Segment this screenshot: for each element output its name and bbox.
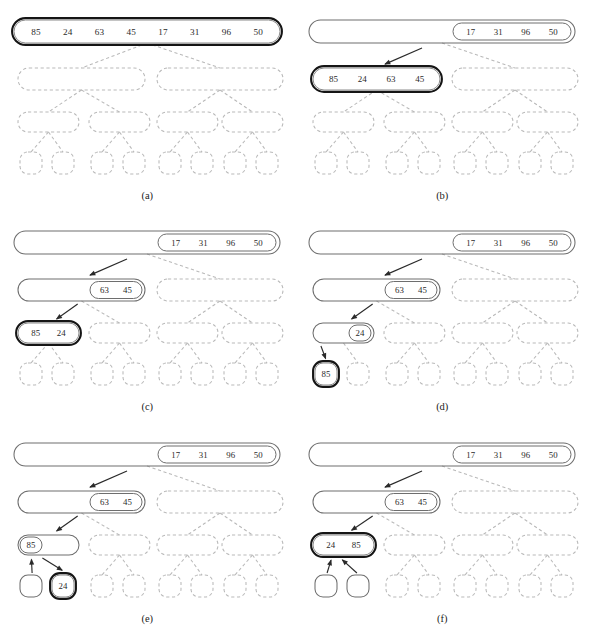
- ghost-edge-l2-1: [377, 513, 415, 535]
- ghost-edge-l3-5: [188, 132, 203, 152]
- ghost-edge-l3-6: [235, 555, 253, 575]
- l2-remaining-value: 63: [100, 285, 109, 295]
- panel-caption-d: (d): [436, 401, 449, 413]
- ghost-leaf-7: [256, 152, 278, 174]
- ghost-edge-l3-2: [102, 343, 120, 363]
- panel-caption-b: (b): [436, 190, 449, 202]
- ghost-leaf-7: [551, 363, 573, 385]
- ghost-node-l3-2: [452, 323, 513, 343]
- ghost-edge-l2-3: [220, 301, 253, 323]
- ghost-node-l2-1: [452, 491, 578, 513]
- ghost-edge-l3-3: [120, 132, 135, 152]
- l2-remaining-value: 63: [100, 497, 109, 507]
- returned-leaf: [347, 575, 369, 597]
- ghost-leaf-4: [159, 152, 181, 174]
- ghost-leaf-5: [191, 363, 213, 385]
- ghost-leaf-3: [123, 152, 145, 174]
- ghost-leaf-6: [224, 152, 246, 174]
- panel-caption-f: (f): [437, 613, 448, 625]
- ghost-leaf-5: [486, 152, 508, 174]
- l2-remaining-value: 45: [418, 285, 427, 295]
- ghost-edge-l3-5: [188, 343, 203, 363]
- ghost-node-l2-1: [157, 68, 283, 90]
- panel-b: 1731965085246345(b): [309, 20, 578, 202]
- root-value: 96: [222, 27, 232, 37]
- recursion-arrow-2-head: [351, 314, 358, 320]
- ghost-node-l3-0: [313, 112, 374, 132]
- ghost-edge-l2-1: [377, 90, 415, 112]
- ghost-node-l3-1: [89, 112, 150, 132]
- root-remaining-value: 96: [226, 450, 235, 460]
- ghost-leaf-7: [551, 152, 573, 174]
- recursion-arrow-1-shaft: [90, 471, 127, 487]
- ghost-edge-l3-1: [49, 132, 64, 152]
- ghost-leaf-1: [347, 152, 369, 174]
- ghost-leaf-0: [20, 363, 42, 385]
- ghost-edge-l3-4: [170, 343, 188, 363]
- panel-f: 1731965063452485(f): [309, 443, 578, 625]
- ghost-edge-l2-2: [188, 301, 221, 323]
- visited-node-l3: [313, 323, 374, 343]
- root-remaining-value: 96: [521, 238, 530, 248]
- root-value: 17: [158, 27, 168, 37]
- ghost-node-l3-3: [517, 112, 578, 132]
- ghost-leaf-6: [519, 152, 541, 174]
- ghost-leaf-2: [91, 363, 113, 385]
- recursion-arrow-2-head: [56, 314, 63, 320]
- ghost-edge-l3-4: [465, 343, 483, 363]
- ghost-leaf-5: [486, 363, 508, 385]
- root-value: 85: [31, 27, 41, 37]
- ghost-edge-l3-0: [31, 343, 49, 363]
- ghost-edge-root-1: [442, 254, 515, 279]
- l2-remaining-value: 45: [123, 497, 132, 507]
- recursion-arrow-1-shaft: [90, 259, 127, 275]
- ghost-node-l3-1: [384, 112, 445, 132]
- panel-e: 1731965063458524(e): [14, 443, 283, 625]
- ghost-node-l3-1: [89, 535, 150, 555]
- root-value: 31: [190, 27, 200, 37]
- ghost-edge-root-0: [82, 43, 148, 68]
- panel-c: 1731965063458524(c): [14, 231, 283, 413]
- ghost-leaf-4: [159, 575, 181, 597]
- l2-remaining-subarray: [385, 494, 437, 511]
- l2-remaining-value: 63: [395, 497, 404, 507]
- root-remaining-value: 31: [494, 450, 503, 460]
- ghost-node-l2-1: [452, 68, 578, 90]
- ghost-edge-l3-5: [483, 132, 498, 152]
- ghost-edge-l2-2: [483, 513, 516, 535]
- root-value: 63: [95, 27, 105, 37]
- ghost-edge-l3-1: [49, 343, 64, 363]
- root-remaining-value: 17: [466, 27, 475, 37]
- ghost-edge-l3-7: [548, 343, 563, 363]
- ghost-edge-l3-0: [326, 132, 344, 152]
- ghost-leaf-5: [191, 575, 213, 597]
- ghost-leaf-3: [123, 575, 145, 597]
- panel-caption-a: (a): [141, 190, 153, 202]
- ghost-edge-root-1: [442, 43, 515, 68]
- ghost-edge-l3-1: [344, 343, 359, 363]
- ghost-edge-l3-3: [415, 132, 430, 152]
- active-node-l3-merged-outline: [311, 533, 376, 557]
- l3-remaining-value: 24: [356, 328, 365, 338]
- ghost-edge-l3-4: [170, 132, 188, 152]
- ghost-leaf-2: [386, 575, 408, 597]
- recursion-arrow-1-shaft: [385, 48, 422, 64]
- ghost-node-l3-3: [517, 323, 578, 343]
- ghost-edge-root-1: [147, 466, 220, 491]
- ghost-edge-l2-3: [220, 90, 253, 112]
- l2-remaining-value: 45: [418, 497, 427, 507]
- return-arrow-1-head: [327, 559, 332, 566]
- ghost-node-l3-3: [517, 535, 578, 555]
- root-value: 50: [254, 27, 264, 37]
- root-remaining-value: 17: [171, 450, 180, 460]
- ghost-leaf-7: [256, 363, 278, 385]
- ghost-leaf-1: [52, 363, 74, 385]
- l3-value: 85: [31, 328, 40, 338]
- ghost-leaf-7: [256, 575, 278, 597]
- ghost-edge-l3-5: [483, 343, 498, 363]
- ghost-leaf-3: [123, 363, 145, 385]
- ghost-edge-l2-1: [377, 301, 415, 323]
- ghost-edge-l3-2: [397, 555, 415, 575]
- ghost-edge-l2-3: [515, 513, 548, 535]
- ghost-edge-l3-2: [102, 132, 120, 152]
